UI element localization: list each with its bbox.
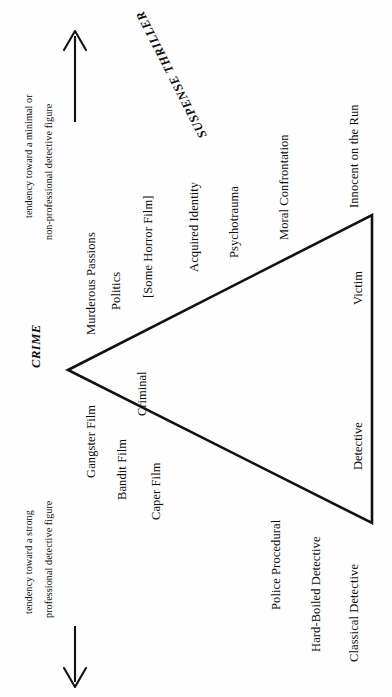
- axis-note-bottom-line1: tendency toward a strong: [24, 510, 34, 614]
- up-arrow-icon: [64, 31, 86, 122]
- axis-note-top-line1: tendency toward a minimal or: [24, 94, 34, 218]
- axis-note-bottom-line2: professional detective figure: [44, 501, 54, 618]
- upper-label-psychotrauma: Psychotrauma: [228, 186, 241, 258]
- inner-label-detective: Detective: [352, 422, 365, 470]
- upper-label-innocent-on-the-run: Innocent on the Run: [348, 104, 361, 208]
- inner-label-victim: Victim: [352, 271, 365, 305]
- category-label-crime: CRIME: [30, 324, 43, 368]
- inner-label-criminal: Criminal: [136, 372, 149, 416]
- genre-triangle-diagram: tendency toward a minimal or non-profess…: [0, 0, 392, 697]
- lower-label-gangster-film: Gangster Film: [85, 405, 98, 478]
- upper-label-murderous-passions: Murderous Passions: [85, 232, 98, 335]
- lower-label-hard-boiled-detective: Hard-Boiled Detective: [310, 536, 323, 652]
- upper-label-some-horror-film: [Some Horror Film]: [142, 196, 155, 298]
- lower-label-caper-film: Caper Film: [150, 462, 163, 520]
- triangle-graphic: [0, 0, 392, 697]
- lower-label-bandit-film: Bandit Film: [116, 439, 129, 500]
- upper-label-moral-confrontation: Moral Confrontation: [278, 134, 291, 240]
- upper-label-acquired-identity: Acquired Identity: [188, 182, 201, 272]
- lower-label-classical-detective: Classical Detective: [348, 564, 361, 662]
- down-arrow-icon: [64, 626, 86, 687]
- genre-triangle-shape: [68, 215, 372, 523]
- axis-note-top-line2: non-professional detective figure: [44, 104, 54, 240]
- lower-label-police-procedural: Police Procedural: [270, 520, 283, 610]
- upper-label-politics: Politics: [110, 272, 123, 310]
